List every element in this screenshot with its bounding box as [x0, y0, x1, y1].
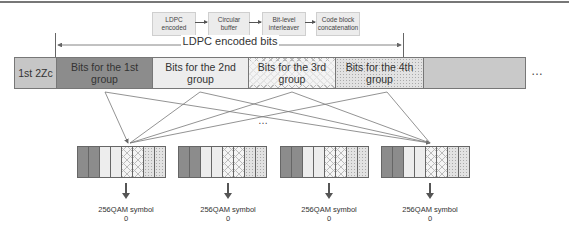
- down-arrow-icon: [125, 183, 127, 194]
- symbol-block: [77, 146, 166, 178]
- symbol-block: [381, 146, 470, 178]
- symbol-label: 256QAM symbol 0: [299, 205, 359, 223]
- symbol-label: 256QAM symbol 0: [96, 205, 156, 223]
- cell-remaining: [424, 58, 525, 88]
- cell-group-2: Bits for the 2nd group: [153, 58, 249, 88]
- cell-first-2zc: 1st 2Zc: [15, 58, 57, 88]
- down-arrow-icon: [429, 183, 431, 194]
- down-arrow-icon: [328, 183, 330, 194]
- symbol-label: 256QAM symbol 0: [400, 205, 460, 223]
- middle-ellipsis: …: [258, 115, 268, 126]
- encoded-bit-row: 1st 2Zc Bits for the 1st group Bits for …: [14, 57, 526, 89]
- row-ellipsis: …: [531, 64, 543, 78]
- symbol-block: [280, 146, 369, 178]
- down-arrow-icon: [227, 183, 229, 194]
- symbol-block: [178, 146, 267, 178]
- cell-group-3: Bits for the 3rd group: [249, 58, 336, 88]
- cell-group-1: Bits for the 1st group: [57, 58, 153, 88]
- span-label: LDPC encoded bits: [56, 35, 404, 47]
- cell-group-4: Bits for the 4th group: [336, 58, 424, 88]
- symbol-label: 256QAM symbol 0: [198, 205, 258, 223]
